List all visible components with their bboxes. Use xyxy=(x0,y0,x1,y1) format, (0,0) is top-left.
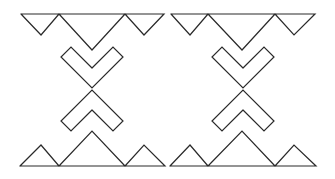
diagram-canvas xyxy=(0,0,335,179)
background xyxy=(0,0,335,179)
